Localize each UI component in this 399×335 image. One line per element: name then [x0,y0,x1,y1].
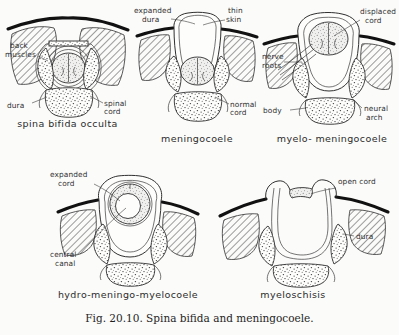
label-central-canal-line1: central [50,250,77,259]
open-neural-plate [290,188,313,198]
label-dura: dura [356,232,373,241]
panel-meningocoele: expanded dura thin skin normal cord [133,4,261,126]
label-expanded-cord-line1: expanded [50,170,88,179]
dura-inner-line [278,188,328,255]
label-thin-skin-line2: skin [226,15,241,24]
label-expanded-dura-line1: expanded [134,6,172,15]
back-muscle-left [222,214,259,260]
label-back-muscles-line2: muscles [5,50,36,59]
label-nerve-roots-line1: nerve [262,52,284,61]
label-thin-skin-line1: thin [228,6,243,15]
spinous-defect [49,41,88,46]
back-muscle-right [163,212,196,257]
panel-title-meningocoele: meningocoele [140,133,254,144]
label-open-cord: open cord [338,177,376,186]
label-spinal-cord-line2: cord [104,107,121,116]
panel-title-myelo-meningocoele: myelo- meningocoele [266,133,398,144]
vertebral-body [106,263,154,287]
label-expanded-cord-line2: cord [58,179,75,188]
central-canal-lumen [116,194,141,219]
back-muscle-right [361,44,392,90]
skin-line-left [220,199,266,216]
back-muscle-left [60,210,96,256]
leader-open-cord [311,188,336,194]
vertebral-body [174,92,221,122]
figure-caption: Fig. 20.10. Spina bifida and meningocoel… [0,312,399,324]
panel-myeloschisis: open cord dura [212,168,392,286]
panel-title-hydro-meningo-myelocoele: hydro-meningo-myelocoele [38,289,218,300]
neural-arch-right [331,224,347,264]
skin-line [8,18,128,30]
figure-spina-bifida: back muscles dura spinal cord spina bifi… [0,0,399,335]
label-body: body [263,106,282,115]
panel-title-myeloschisis: myeloschisis [228,289,358,300]
vertebral-body [305,98,354,125]
label-displaced-cord-line2: cord [365,16,382,25]
label-neural-arch-line2: arch [366,113,383,122]
skin-line-right [360,36,394,44]
panel-hydro-meningo-myelocoele: expanded cord central canal [50,168,202,286]
neural-arch-left [259,226,275,266]
label-normal-cord-line2: cord [230,108,247,117]
label-expanded-dura-line2: dura [142,15,159,24]
label-central-canal-line2: canal [55,259,75,268]
label-nerve-roots-line2: roots [262,61,281,70]
label-neural-arch-line1: neural [364,104,388,113]
sac-wall-left-outer [266,181,290,199]
label-displaced-cord-line1: displaced [360,7,396,16]
vertebral-body [273,264,328,288]
label-back-muscles-line1: back [10,41,29,50]
panel-myelo-meningocoele: displaced cord nerve roots body neural a… [262,4,398,126]
sac-inner-lining [272,188,332,259]
panel-spina-bifida-occulta: back muscles dura spinal cord [2,4,134,122]
label-dura: dura [7,101,24,110]
panel-title-spina-bifida-occulta: spina bifida occulta [10,118,125,129]
leader-body [290,108,306,110]
vertebral-body [45,88,92,118]
